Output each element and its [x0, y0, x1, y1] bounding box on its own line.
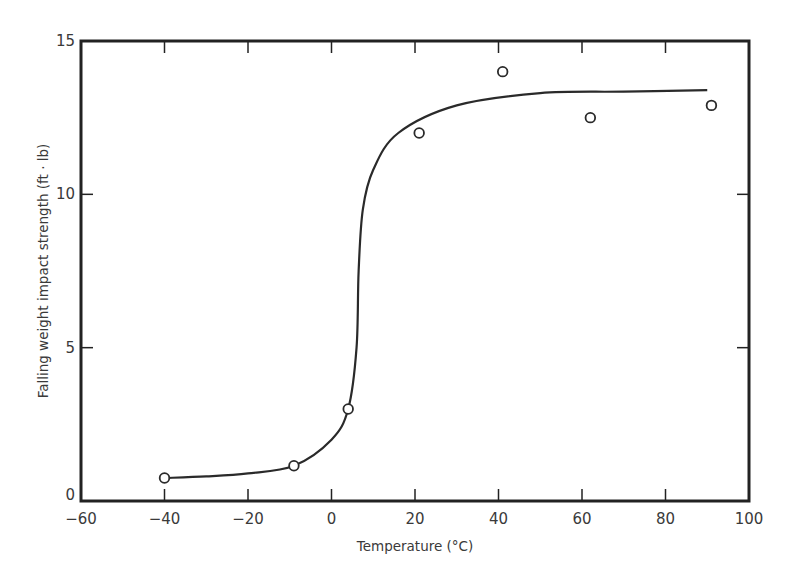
x-tick-label: 80	[656, 510, 675, 528]
data-point-marker	[498, 67, 508, 77]
x-tick-labels: −60−40−20020406080100	[65, 510, 763, 528]
x-tick-label: −60	[65, 510, 97, 528]
chart-svg: −60−40−20020406080100 051015 Temperature…	[0, 0, 796, 576]
data-point-marker	[707, 101, 717, 111]
x-tick-label: 100	[735, 510, 764, 528]
y-tick-label: 15	[56, 32, 75, 50]
x-tick-label: −20	[232, 510, 264, 528]
fitted-curve	[165, 90, 708, 478]
data-point-marker	[586, 113, 596, 123]
x-tick-label: 0	[327, 510, 337, 528]
data-point-marker	[343, 404, 353, 414]
data-markers	[160, 67, 717, 483]
x-tick-label: 60	[572, 510, 591, 528]
y-tick-label: 5	[65, 339, 75, 357]
y-tick-labels: 051015	[56, 32, 75, 504]
y-tick-label: 10	[56, 185, 75, 203]
y-tick-label: 0	[65, 486, 75, 504]
x-tick-label: 20	[405, 510, 424, 528]
x-tick-label: −40	[149, 510, 181, 528]
plot-frame	[81, 41, 749, 501]
x-tick-label: 40	[489, 510, 508, 528]
y-axis-title: Falling weight impact strength (ft · lb)	[35, 144, 51, 399]
data-point-marker	[289, 461, 299, 471]
data-point-marker	[414, 128, 424, 138]
data-point-marker	[160, 473, 170, 483]
axis-ticks	[81, 41, 749, 501]
x-axis-title: Temperature (°C)	[356, 538, 474, 554]
